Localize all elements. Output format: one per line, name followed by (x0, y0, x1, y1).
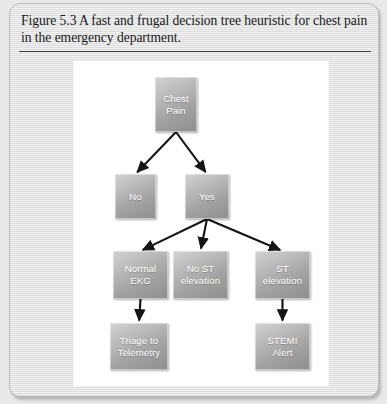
tree-node-label: No ST elevation (181, 263, 220, 286)
tree-node-no[interactable]: No (115, 174, 156, 219)
tree-node-stemi-alert[interactable]: STEMI Alert (255, 323, 310, 370)
tree-node-label: No (129, 191, 141, 203)
tree-node-st-elevation[interactable]: ST elevation (255, 251, 310, 299)
tree-node-label: ST elevation (263, 263, 302, 286)
caption-divider (19, 51, 371, 52)
tree-edge-chest-pain-to-no (137, 132, 176, 172)
tree-node-no-st-elevation[interactable]: No ST elevation (173, 251, 228, 299)
tree-node-yes[interactable]: Yes (185, 174, 229, 219)
figure-caption: Figure 5.3 A fast and frugal decision tr… (21, 12, 369, 46)
tree-edge-yes-to-normal-ekg (143, 219, 207, 250)
tree-node-label: Triage to Telemetry (118, 335, 160, 358)
tree-node-triage[interactable]: Triage to Telemetry (110, 323, 168, 370)
tree-node-label: Yes (199, 191, 215, 203)
tree-node-normal-ekg[interactable]: Normal EKG (113, 251, 168, 299)
tree-node-label: Chest Pain (163, 93, 189, 116)
tree-edge-chest-pain-to-yes (176, 132, 206, 172)
tree-node-label: STEMI Alert (268, 335, 298, 358)
tree-edge-yes-to-st-elevation (207, 219, 280, 250)
tree-edge-yes-to-no-st-elevation (201, 219, 207, 249)
tree-node-chest-pain[interactable]: Chest Pain (155, 77, 197, 132)
scanned-page: Figure 5.3 A fast and frugal decision tr… (0, 0, 387, 404)
figure-card: Figure 5.3 A fast and frugal decision tr… (9, 3, 379, 397)
diagram-canvas: Chest PainNoYesNormal EKGNo ST elevation… (74, 61, 328, 386)
tree-node-label: Normal EKG (125, 263, 157, 286)
tree-edge-normal-ekg-to-triage (139, 299, 140, 321)
